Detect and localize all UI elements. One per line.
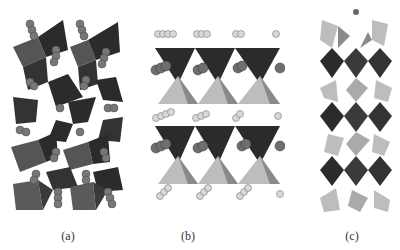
sphere-row-bottom — [157, 185, 284, 200]
layer-1 — [155, 48, 280, 104]
panel-b-structure — [150, 26, 285, 201]
structure-a-image — [8, 12, 128, 212]
isolated-sphere — [353, 9, 359, 15]
structure-c-image — [318, 6, 394, 216]
panel-b-label: (b) — [168, 229, 208, 244]
panel-a-structure — [8, 12, 128, 212]
structure-b-image — [150, 26, 285, 201]
panel-c-structure — [318, 6, 394, 216]
sphere-row-top — [155, 31, 280, 38]
panel-a-label: (a) — [48, 229, 88, 244]
layer-2 — [155, 126, 280, 184]
sphere-row-mid-light — [153, 109, 282, 122]
octahedra-chain — [320, 20, 392, 212]
panel-c-label: (c) — [332, 229, 372, 244]
